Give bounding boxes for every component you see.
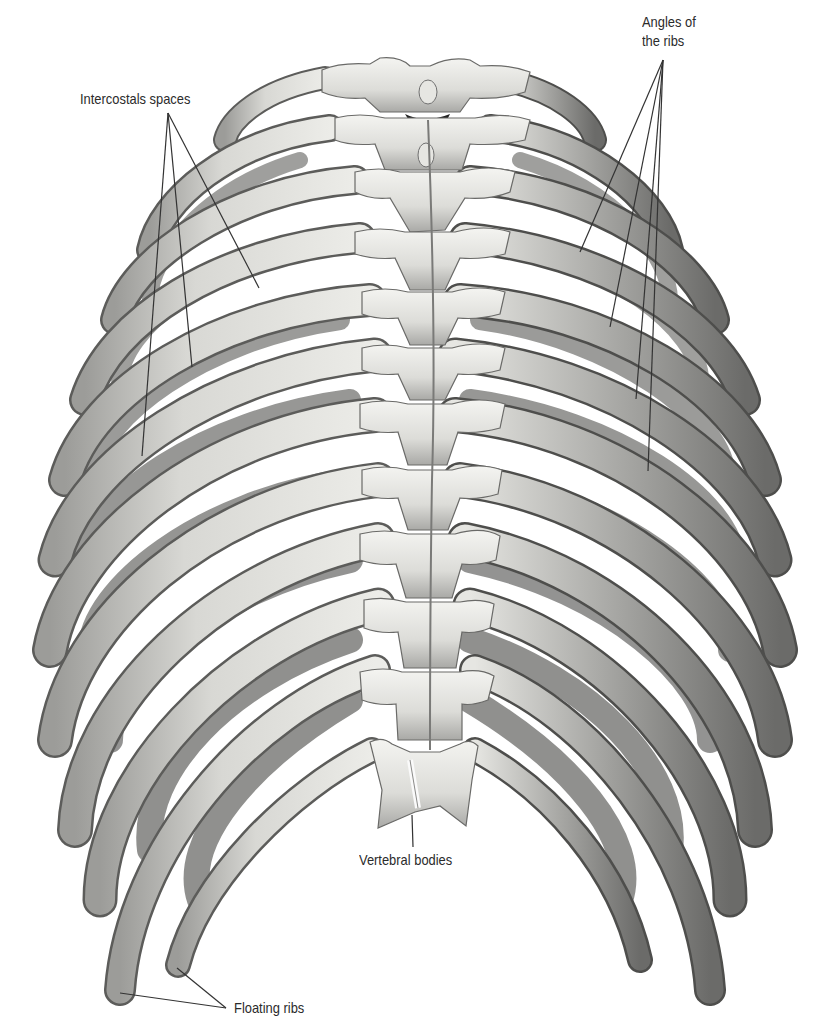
label-vertebral-bodies: Vertebral bodies <box>359 850 452 869</box>
label-intercostal-spaces: Intercostals spaces <box>80 89 190 108</box>
rib-cage-illustration <box>0 0 817 1029</box>
label-angles-line2: the ribs <box>642 31 696 50</box>
label-angles-of-ribs: Angles of the ribs <box>642 12 696 50</box>
label-angles-line1: Angles of <box>642 12 696 31</box>
leader-vertebral <box>412 815 413 847</box>
label-floating-ribs: Floating ribs <box>234 998 304 1017</box>
left-ribs <box>50 78 378 990</box>
